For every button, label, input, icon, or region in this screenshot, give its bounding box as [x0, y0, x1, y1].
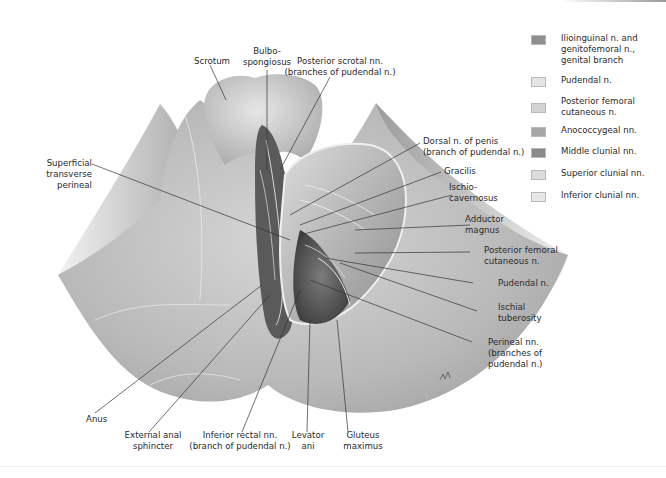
legend-label: Inferior clunial nn.	[561, 190, 639, 201]
label-external-anal-sphincter: External anal sphincter	[125, 430, 182, 452]
legend-label: Middle clunial nn.	[561, 146, 637, 157]
label-posterior-scrotal-nerves: Posterior scrotal nn. (branches of puden…	[284, 56, 395, 78]
label-pudendal-nerve: Pudendal n.	[498, 278, 549, 289]
legend-swatch	[531, 170, 546, 180]
label-gracilis: Gracilis	[444, 166, 476, 177]
legend-item-superior-clunial: Superior clunial nn.	[531, 168, 645, 180]
legend-item-inferior-clunial: Inferior clunial nn.	[531, 190, 639, 202]
legend-item-posterior-femoral-cutaneous: Posterior femoral cutaneous n.	[531, 96, 635, 118]
label-ischial-tuberosity: Ischial tuberosity	[498, 302, 541, 324]
bottom-divider	[0, 466, 666, 467]
legend-swatch	[531, 148, 546, 158]
label-anus: Anus	[86, 414, 107, 425]
legend-label: Posterior femoral cutaneous n.	[561, 96, 635, 118]
label-adductor-magnus: Adductor magnus	[465, 214, 504, 236]
legend-swatch	[531, 103, 546, 113]
legend-item-pudendal: Pudendal n.	[531, 75, 612, 87]
anatomy-figure: Scrotum Bulbo- spongiosus Posterior scro…	[0, 0, 666, 478]
label-perineal-nerves: Perineal nn. (branches of pudendal n.)	[488, 337, 542, 370]
legend-label: Superior clunial nn.	[561, 168, 645, 179]
label-dorsal-nerve-of-penis: Dorsal n. of penis (branch of pudendal n…	[423, 136, 524, 158]
label-levator-ani: Levator ani	[292, 430, 324, 452]
legend-item-ilioinguinal: Ilioinguinal n. and genitofemoral n., ge…	[531, 33, 638, 66]
label-ischiocavernosus: Ischio- cavernosus	[449, 182, 498, 204]
legend-label: Anococcygeal nn.	[561, 125, 637, 136]
label-superficial-transverse-perineal: Superficial transverse perineal	[46, 158, 92, 191]
legend-swatch	[531, 35, 546, 45]
legend-label: Ilioinguinal n. and genitofemoral n., ge…	[561, 33, 638, 66]
label-inferior-rectal-nerves: Inferior rectal nn. (branch of pudendal …	[189, 430, 290, 452]
label-scrotum: Scrotum	[194, 56, 230, 67]
label-gluteus-maximus: Gluteus maximus	[343, 430, 382, 452]
legend-swatch	[531, 192, 546, 202]
legend-swatch	[531, 127, 546, 137]
legend-swatch	[531, 77, 546, 87]
legend-item-middle-clunial: Middle clunial nn.	[531, 146, 637, 158]
legend-item-anococcygeal: Anococcygeal nn.	[531, 125, 637, 137]
label-posterior-femoral-cutaneous: Posterior femoral cutaneous n.	[484, 245, 558, 267]
legend-label: Pudendal n.	[561, 75, 612, 86]
